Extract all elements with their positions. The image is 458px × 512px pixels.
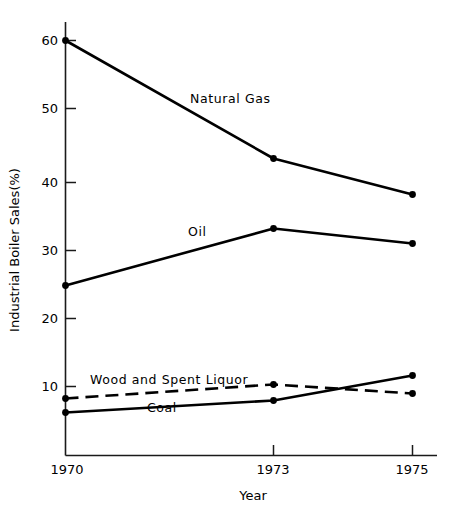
oil-point-1973: [270, 225, 277, 232]
x-axis-title: Year: [238, 488, 267, 503]
coal-label: Coal: [147, 400, 177, 415]
oil-label: Oil: [188, 224, 207, 239]
line-chart: 60 50 40 30 20 10 1970 1973 1975 Year In…: [0, 0, 458, 512]
y-axis-ticks: [66, 41, 77, 387]
wood-and-spent-liquor-label: Wood and Spent Liquor: [90, 372, 249, 387]
coal-point-1975: [409, 372, 416, 379]
y-axis-title: Industrial Boiler Sales(%): [7, 168, 22, 332]
wood-point-1970: [62, 395, 69, 402]
coal-point-1973: [270, 397, 277, 404]
x-tick-label-1970: 1970: [50, 462, 83, 477]
series-wood-and-spent-liquor: Wood and Spent Liquor: [62, 372, 416, 402]
oil-point-1970: [62, 282, 69, 289]
y-tick-label-30: 30: [41, 243, 58, 258]
natural-gas-line: [66, 41, 413, 195]
y-tick-label-50: 50: [41, 101, 58, 116]
y-tick-label-60: 60: [41, 33, 58, 48]
coal-point-1970: [62, 409, 69, 416]
x-axis-ticks: [274, 445, 413, 456]
natural-gas-label: Natural Gas: [190, 91, 271, 106]
y-tick-label-20: 20: [41, 311, 58, 326]
y-tick-label-40: 40: [41, 175, 58, 190]
y-axis-tick-labels: 60 50 40 30 20 10: [41, 33, 58, 394]
series-natural-gas: Natural Gas: [62, 37, 416, 198]
wood-point-1975: [409, 390, 416, 397]
natural-gas-point-1970: [62, 37, 69, 44]
x-tick-label-1973: 1973: [256, 462, 289, 477]
x-tick-label-1975: 1975: [395, 462, 428, 477]
natural-gas-point-1975: [409, 191, 416, 198]
x-axis-tick-labels: 1970 1973 1975: [50, 462, 428, 477]
natural-gas-point-1973: [270, 155, 277, 162]
chart-canvas: 60 50 40 30 20 10 1970 1973 1975 Year In…: [0, 0, 458, 512]
oil-line: [66, 229, 413, 286]
oil-point-1975: [409, 240, 416, 247]
wood-point-1973: [270, 381, 277, 388]
series-oil: Oil: [62, 224, 416, 289]
y-tick-label-10: 10: [41, 379, 58, 394]
